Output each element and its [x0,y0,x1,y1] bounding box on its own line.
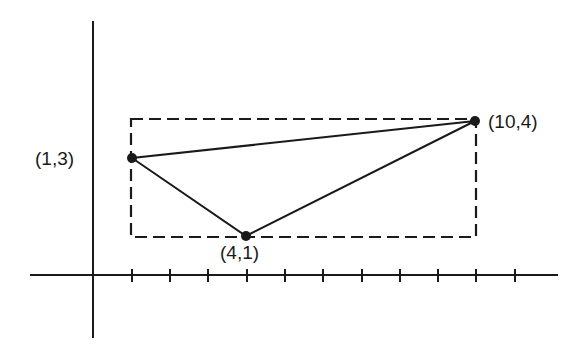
point-c-dot [470,116,480,126]
point-b-label: (4,1) [220,242,259,263]
triangle [132,121,475,236]
point-c-label: (10,4) [488,111,538,132]
bounding-rectangle [131,119,476,237]
point-a-dot [127,153,137,163]
axes [30,21,558,338]
point-a-label: (1,3) [35,148,74,169]
coordinate-diagram: (1,3) (4,1) (10,4) [0,0,578,350]
point-b-dot [241,231,251,241]
